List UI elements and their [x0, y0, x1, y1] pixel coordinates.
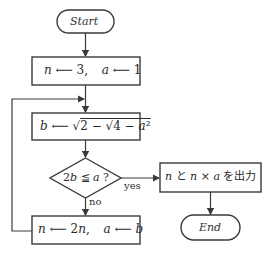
decision-label: 2b ≦ a ?	[63, 172, 109, 183]
yes-label: yes	[124, 181, 141, 191]
assign-arrow-icon: ⟵	[52, 119, 69, 133]
update-var-a: a	[103, 222, 110, 236]
init-content: n ⟵ 3, a ⟵ 1	[44, 64, 141, 76]
assign-arrow-icon: ⟵	[113, 63, 130, 77]
update-var-n: n	[38, 222, 46, 236]
update-content: n ⟵ 2n, a ⟵ b	[38, 223, 143, 235]
compute-lhs: b	[40, 119, 48, 133]
assign-arrow-icon: ⟵	[50, 222, 67, 236]
init-var-a: a	[102, 63, 109, 77]
init-val-n: 3,	[77, 63, 88, 77]
assign-arrow-icon: ⟵	[56, 63, 73, 77]
compute-content: b ⟵ √2 − √4 − a²	[40, 120, 150, 132]
init-val-a: 1	[134, 63, 142, 77]
assign-arrow-icon: ⟵	[114, 222, 131, 236]
compute-expr: √2 − √4 − a²	[73, 119, 151, 133]
update-val-n: 2n,	[71, 222, 90, 236]
update-val-a: b	[135, 222, 143, 236]
no-label: no	[89, 197, 101, 207]
end-label: End	[199, 222, 221, 233]
start-label: Start	[70, 16, 98, 27]
output-label: n と n × a を出力	[165, 171, 256, 182]
init-var-n: n	[44, 63, 52, 77]
